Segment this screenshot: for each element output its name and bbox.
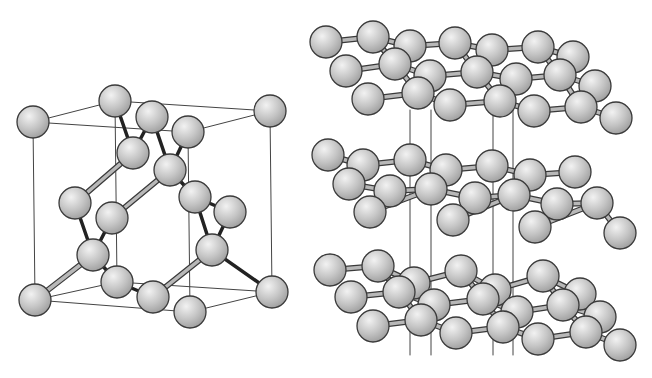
carbon-atom xyxy=(312,139,344,171)
carbon-atom xyxy=(581,187,613,219)
carbon-atom xyxy=(570,316,602,348)
graphite-layers: Graphite stacked hexagonal layers xyxy=(310,21,636,361)
hexagonal-layers xyxy=(310,21,636,361)
carbon-atom xyxy=(437,204,469,236)
cell-edge xyxy=(33,122,35,300)
carbon-atom xyxy=(117,137,149,169)
carbon-atom xyxy=(379,48,411,80)
carbon-atom xyxy=(405,304,437,336)
cell-edge xyxy=(115,101,117,282)
carbon-atom xyxy=(547,289,579,321)
carbon-atom xyxy=(174,296,206,328)
carbon-atom xyxy=(559,156,591,188)
carbon-atom xyxy=(445,255,477,287)
carbon-atom xyxy=(335,281,367,313)
carbon-atom xyxy=(518,95,550,127)
carbon-atom xyxy=(19,284,51,316)
carbon-atom xyxy=(484,85,516,117)
carbon-atom xyxy=(136,101,168,133)
carbon-atom xyxy=(333,168,365,200)
carbon-atom xyxy=(461,56,493,88)
carbon-atom xyxy=(214,196,246,228)
carbon-atom xyxy=(415,173,447,205)
carbon-atom xyxy=(354,196,386,228)
carbon-atom xyxy=(96,202,128,234)
carbon-atom xyxy=(196,234,228,266)
carbon-atom xyxy=(604,329,636,361)
carbon-atom xyxy=(498,179,530,211)
carbon-atom xyxy=(310,26,342,58)
carbon-atom xyxy=(254,95,286,127)
carbon-atom xyxy=(476,150,508,182)
carbon-atom xyxy=(439,27,471,59)
carbon-atom xyxy=(600,102,632,134)
middle-layer xyxy=(312,139,636,249)
carbon-atom xyxy=(440,317,472,349)
carbon-atom xyxy=(522,323,554,355)
carbon-atom xyxy=(179,181,211,213)
carbon-atom xyxy=(352,83,384,115)
diamond-unit-cell: Diamond cubic unit cell xyxy=(17,85,288,328)
carbon-atom xyxy=(519,211,551,243)
cell-edge xyxy=(270,111,272,292)
carbon-atom xyxy=(17,106,49,138)
carbon-atom xyxy=(522,31,554,63)
carbon-atom xyxy=(487,311,519,343)
carbon-atom xyxy=(527,260,559,292)
carbon-atom xyxy=(99,85,131,117)
carbon-atom xyxy=(357,310,389,342)
carbon-atom xyxy=(101,266,133,298)
carbon-atom xyxy=(59,187,91,219)
carbon-atom xyxy=(137,281,169,313)
carbon-atom xyxy=(434,89,466,121)
carbon-atom xyxy=(565,91,597,123)
carbon-atom xyxy=(394,144,426,176)
bottom-layer xyxy=(314,250,636,361)
carbon-atom xyxy=(402,77,434,109)
carbon-atom xyxy=(256,276,288,308)
crystal-structure-diagram: Diamond cubic unit cell Graphite stacked… xyxy=(0,0,652,378)
carbon-atoms xyxy=(17,85,288,328)
carbon-atom xyxy=(357,21,389,53)
carbon-atom xyxy=(604,217,636,249)
carbon-atom xyxy=(314,254,346,286)
carbon-atom xyxy=(330,55,362,87)
cell-edge xyxy=(188,132,190,312)
carbon-atom xyxy=(383,276,415,308)
carbon-atom xyxy=(77,239,109,271)
carbon-atom xyxy=(172,116,204,148)
top-layer xyxy=(310,21,632,134)
carbon-atom xyxy=(154,154,186,186)
carbon-atom xyxy=(544,59,576,91)
carbon-atom xyxy=(467,283,499,315)
carbon-atom xyxy=(362,250,394,282)
